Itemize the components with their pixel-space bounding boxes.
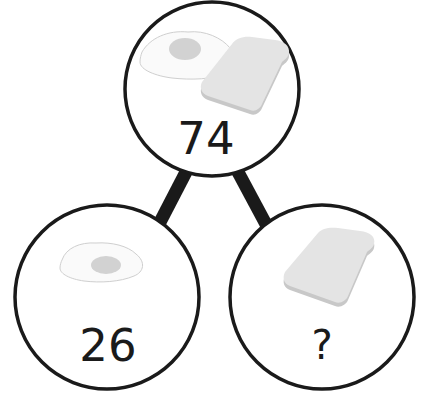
connector-right <box>238 172 268 228</box>
part-value-toast: ? <box>311 325 332 365</box>
part-whole-diagram: 74 26 ? <box>0 0 421 397</box>
connector-left <box>158 172 186 226</box>
part-value-egg: 26 <box>79 323 136 368</box>
whole-value: 74 <box>177 116 234 161</box>
diagram-graphic <box>0 0 421 397</box>
